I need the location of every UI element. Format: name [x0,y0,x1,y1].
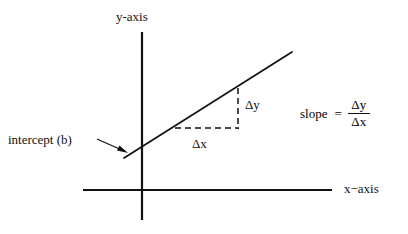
sloped-line [124,52,292,158]
slope-formula: slope = Δy Δx [300,98,370,129]
intercept-arrow [97,139,128,153]
slope-formula-numerator: Δy [349,98,368,113]
slope-formula-word: slope [300,106,327,122]
intercept-label: intercept (b) [8,133,72,146]
slope-formula-denominator: Δx [349,114,368,129]
delta-y-label: Δy [245,98,260,111]
delta-x-label: Δx [192,137,207,150]
y-axis-label: y-axis [116,10,148,23]
intercept-arrow-head [117,146,128,154]
slope-formula-equals: = [334,106,341,122]
slope-formula-fraction: Δy Δx [348,98,370,129]
x-axis-label: x−axis [344,182,379,195]
